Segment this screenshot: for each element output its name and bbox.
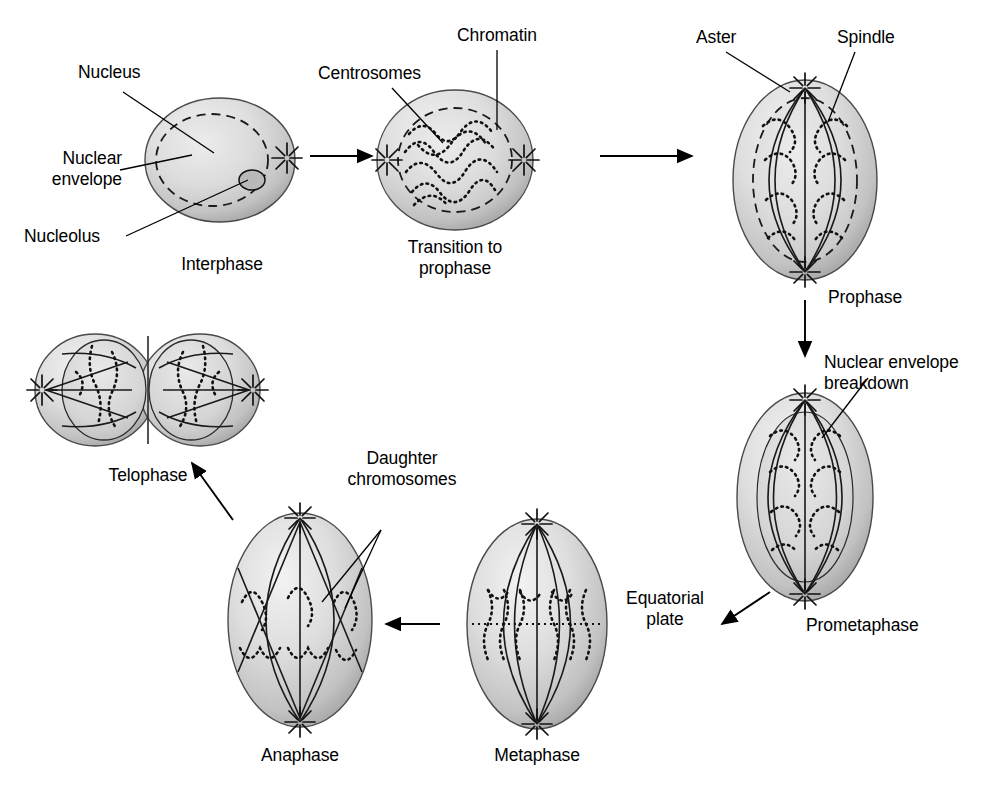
label-nuclear-envelope-line2: envelope xyxy=(0,169,122,190)
caption-interphase: Interphase xyxy=(160,254,284,275)
label-daughter-chromosomes-line1: Daughter xyxy=(320,448,484,469)
label-chromatin: Chromatin xyxy=(437,25,557,46)
label-equatorial-plate-line1: Equatorial xyxy=(614,588,716,609)
nuclear-envelope-dashed xyxy=(156,114,268,206)
mitosis-diagram: Nucleus Nuclear envelope Nucleolus Centr… xyxy=(0,0,1000,786)
label-aster: Aster xyxy=(696,27,736,48)
nuclear-envelope-dashed xyxy=(398,108,512,212)
caption-telophase: Telophase xyxy=(90,465,206,486)
label-centrosomes: Centrosomes xyxy=(318,63,421,84)
caption-transition-line1: Transition to xyxy=(385,237,525,258)
cell-telophase xyxy=(27,334,268,446)
label-nuclear-envelope-breakdown-line2: breakdown xyxy=(824,373,909,394)
label-spindle: Spindle xyxy=(837,27,895,48)
nucleolus-shape xyxy=(239,170,265,190)
label-nucleolus: Nucleolus xyxy=(24,226,100,247)
leader-aster xyxy=(726,52,790,92)
arrow-prometaphase-to-metaphase xyxy=(722,592,770,624)
label-daughter-chromosomes-line2: chromosomes xyxy=(320,469,484,490)
label-equatorial-plate-line2: plate xyxy=(614,609,716,630)
cell-anaphase xyxy=(228,503,372,737)
cell-prophase xyxy=(733,73,877,287)
label-nuclear-envelope-breakdown-line1: Nuclear envelope xyxy=(824,352,959,373)
caption-metaphase: Metaphase xyxy=(477,745,597,766)
caption-anaphase: Anaphase xyxy=(242,745,358,766)
label-nuclear-envelope-line1: Nuclear xyxy=(0,148,122,169)
cell-prometaphase xyxy=(737,385,873,609)
cell-transition-to-prophase xyxy=(372,90,539,230)
caption-prophase: Prophase xyxy=(828,287,902,308)
caption-transition-line2: prophase xyxy=(385,258,525,279)
cell-metaphase xyxy=(467,509,607,739)
label-nucleus: Nucleus xyxy=(78,62,141,83)
caption-prometaphase: Prometaphase xyxy=(806,615,919,636)
